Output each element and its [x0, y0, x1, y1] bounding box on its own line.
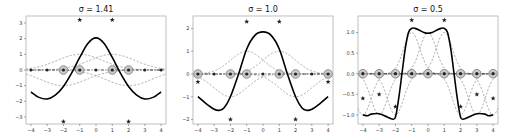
center-dot [160, 69, 163, 72]
star-marker [110, 17, 115, 22]
center-dot [394, 72, 397, 75]
x-tick-label: −4 [27, 127, 34, 133]
plot-area [358, 18, 498, 120]
center-dot [492, 72, 495, 75]
x-tick-label: 0 [426, 127, 429, 133]
y-tick-label: −1 [15, 82, 22, 88]
center-dot [262, 72, 265, 75]
x-tick-label: 3 [310, 127, 313, 133]
star-marker [442, 18, 447, 23]
y-tick-label: 1 [186, 48, 189, 54]
y-tick-label: 0.0 [347, 71, 355, 77]
star-marker [293, 117, 298, 122]
star-marker [326, 79, 331, 84]
center-dot [111, 68, 114, 71]
center-dot [327, 72, 330, 75]
center-dot [46, 69, 49, 72]
center-dot [213, 72, 216, 75]
center-dot [196, 72, 199, 75]
kernel-dashed-curve [26, 70, 166, 86]
kernel-dashed-curve [193, 51, 333, 74]
center-dot [459, 72, 462, 75]
kernel-dashed-curve [193, 74, 333, 97]
chart-panel-sigma-1-41: −4−3−2−101234−3−2−10123σ = 1.41 [15, 5, 166, 133]
center-dot [378, 72, 381, 75]
center-dot [143, 69, 146, 72]
x-tick-label: 4 [492, 127, 495, 133]
star-marker [409, 18, 414, 23]
kernel-dashed-curve [26, 54, 166, 70]
y-tick-label: −1 [182, 94, 189, 100]
star-marker [77, 17, 82, 22]
x-tick-label: 3 [475, 127, 478, 133]
star-marker [195, 79, 200, 84]
x-tick-label: −1 [243, 127, 250, 133]
x-tick-label: 1 [443, 127, 446, 133]
x-tick-label: 0 [261, 127, 264, 133]
center-dot [361, 72, 364, 75]
center-dot [78, 68, 81, 71]
kernel-dashed-curve [193, 51, 333, 74]
star-marker [244, 19, 249, 24]
chart-title: σ = 1.0 [248, 5, 278, 14]
x-tick-label: −2 [392, 127, 399, 133]
y-tick-label: −0.5 [342, 91, 354, 97]
center-dot [278, 72, 281, 75]
y-tick-label: 0 [19, 67, 22, 73]
y-tick-label: 2 [19, 35, 22, 41]
y-tick-label: 3 [19, 20, 22, 26]
star-marker [491, 96, 496, 101]
center-dot [475, 72, 478, 75]
x-tick-label: −3 [43, 127, 50, 133]
x-tick-label: −4 [359, 127, 366, 133]
y-tick-label: 1 [19, 51, 22, 57]
x-tick-label: −3 [210, 127, 217, 133]
star-marker [61, 119, 66, 124]
center-dot [443, 72, 446, 75]
star-marker [126, 119, 131, 124]
center-dot [95, 69, 98, 72]
y-tick-label: −2 [182, 116, 189, 122]
x-tick-label: 2 [294, 127, 297, 133]
kernel-dashed-curve [26, 70, 166, 86]
y-tick-label: 2 [186, 25, 189, 31]
function-curve [31, 38, 161, 99]
y-tick-label: −2 [15, 98, 22, 104]
x-tick-label: 2 [459, 127, 462, 133]
figure: −4−3−2−101234−3−2−10123σ = 1.41 −4−3−2−1… [0, 0, 513, 139]
y-tick-label: −1.0 [342, 112, 354, 118]
star-marker [474, 92, 479, 97]
center-dot [245, 72, 248, 75]
plot-area [26, 17, 166, 123]
star-marker [277, 19, 282, 24]
center-dot [229, 72, 232, 75]
x-tick-label: −1 [408, 127, 415, 133]
kernel-dashed-curve [358, 32, 498, 73]
x-tick-label: 0 [94, 127, 97, 133]
center-dot [29, 69, 32, 72]
x-tick-label: −2 [227, 127, 234, 133]
function-curve [198, 32, 328, 111]
star-marker [360, 96, 365, 101]
x-tick-label: −1 [76, 127, 83, 133]
chart-panel-sigma-1-0: −4−3−2−101234−2−1012σ = 1.0 [182, 5, 333, 133]
x-tick-label: 4 [327, 127, 330, 133]
center-dot [62, 68, 65, 71]
x-tick-label: −3 [375, 127, 382, 133]
chart-title: σ = 0.5 [413, 5, 443, 14]
x-tick-label: 1 [278, 127, 281, 133]
center-dot [294, 72, 297, 75]
center-dot [127, 68, 130, 71]
y-tick-label: 0.5 [347, 50, 355, 56]
y-tick-label: −3 [15, 114, 22, 120]
star-marker [228, 117, 233, 122]
chart-panel-sigma-0-5: −4−3−2−101234−1.0−0.50.00.51.0σ = 0.5 [342, 5, 498, 133]
chart-title: σ = 1.41 [79, 5, 114, 14]
x-tick-label: 4 [160, 127, 163, 133]
center-dot [426, 72, 429, 75]
plot-area [193, 19, 333, 121]
x-tick-label: 3 [143, 127, 146, 133]
kernel-dashed-curve [26, 54, 166, 70]
y-tick-label: 0 [186, 71, 189, 77]
x-tick-label: 2 [127, 127, 130, 133]
